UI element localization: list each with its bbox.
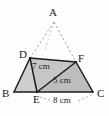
vertex-label-E: E <box>33 94 40 105</box>
vertex-dot-F <box>75 61 77 63</box>
edge-A-E-dashed <box>45 22 54 50</box>
edge-A-F-dashed <box>54 22 76 62</box>
dimension-label-EC: 8 cm <box>53 96 71 105</box>
vertex-dot-D <box>29 57 31 59</box>
vertex-label-F: F <box>78 53 84 64</box>
edge-E-C-dashed-right <box>78 95 92 101</box>
vertex-label-C: C <box>97 88 104 99</box>
vertex-label-A: A <box>49 7 57 18</box>
edge-A-D-dashed <box>30 22 54 58</box>
vertex-label-D: D <box>19 49 27 60</box>
dimension-label-EF: 5 cm <box>53 76 71 85</box>
edge-E-C-dashed <box>40 97 52 101</box>
dimension-label-DE: 7 cm <box>32 62 50 71</box>
geometry-figure: A D F B E C 7 cm 5 cm 8 cm <box>0 0 109 116</box>
vertex-label-B: B <box>2 88 9 99</box>
